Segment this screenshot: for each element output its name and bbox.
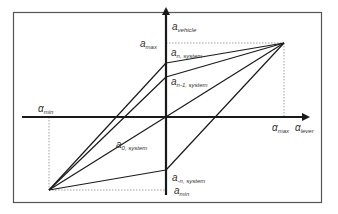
- a-n-system-label: an, system: [171, 47, 202, 59]
- a-min-label: amin: [174, 185, 190, 197]
- y-axis-label: avehicle: [172, 21, 197, 33]
- a-max-label: amax: [140, 38, 158, 50]
- diagram-frame: [14, 13, 322, 203]
- a-0-system-label: a0, system: [116, 139, 147, 151]
- alpha-max-label: αmax: [272, 122, 290, 134]
- a-neg-n-system-label: a-n, system: [172, 172, 205, 184]
- x-axis-label: αlever: [295, 122, 315, 134]
- a-n-1-system-label: an-1, system: [171, 76, 208, 88]
- hysteresis-diagram: avehicle amax an, system an-1, system αm…: [0, 0, 338, 214]
- alpha-min-label: αmin: [38, 103, 54, 115]
